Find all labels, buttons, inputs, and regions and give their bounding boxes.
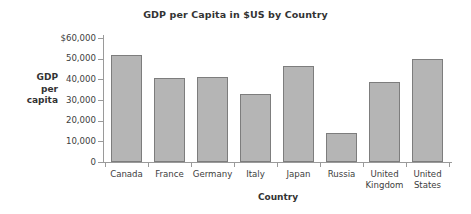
bar bbox=[283, 66, 314, 162]
x-axis-tick bbox=[148, 162, 149, 167]
x-axis-tick bbox=[191, 162, 192, 167]
bar-chart: GDP per Capita in $US by Country GDP per… bbox=[0, 0, 471, 214]
x-axis-title: Country bbox=[104, 192, 452, 202]
y-axis-title-line-2: per bbox=[8, 84, 58, 96]
chart-title: GDP per Capita in $US by Country bbox=[0, 9, 471, 20]
x-axis-category-label-line: United bbox=[400, 169, 456, 180]
bar bbox=[197, 77, 228, 162]
y-axis-tick bbox=[98, 162, 104, 163]
x-axis-tick bbox=[105, 162, 106, 167]
x-axis-category-label: UnitedStates bbox=[400, 169, 456, 190]
y-axis-tick-label: 50,000 bbox=[4, 53, 96, 63]
y-axis-tick-label: 30,000 bbox=[4, 95, 96, 105]
y-axis-tick-label: 40,000 bbox=[4, 74, 96, 84]
y-axis-tick-label: 10,000 bbox=[4, 136, 96, 146]
plot-area bbox=[104, 38, 452, 162]
y-axis-tick-label: 0 bbox=[4, 157, 96, 167]
bar bbox=[154, 78, 185, 162]
x-axis-tick bbox=[449, 162, 450, 167]
bar bbox=[326, 133, 357, 162]
y-axis-tick-label: $60,000 bbox=[4, 33, 96, 43]
x-axis-category-label-line: States bbox=[400, 180, 456, 191]
bar bbox=[111, 55, 142, 162]
x-axis-tick bbox=[406, 162, 407, 167]
x-axis-tick bbox=[320, 162, 321, 167]
y-axis-tick-label: 20,000 bbox=[4, 115, 96, 125]
bar bbox=[369, 82, 400, 162]
bar bbox=[240, 94, 271, 162]
bar bbox=[412, 59, 443, 162]
x-axis-tick bbox=[277, 162, 278, 167]
x-axis-tick bbox=[234, 162, 235, 167]
x-axis-tick bbox=[363, 162, 364, 167]
